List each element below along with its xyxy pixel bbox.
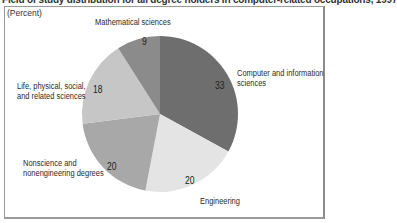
- label-life-sciences-1: Life, physical, social,: [17, 81, 86, 91]
- value-engineering: 20: [185, 175, 194, 186]
- label-mathematical-sciences: Mathematical sciences: [95, 17, 171, 27]
- value-computer-sciences: 33: [215, 80, 224, 91]
- label-computer-sciences-1: Computer and information: [237, 68, 323, 78]
- value-life-sciences: 18: [93, 84, 102, 95]
- value-mathematical-sciences: 9: [142, 36, 147, 47]
- label-computer-sciences-2: sciences: [237, 78, 266, 88]
- label-nonscience-2: nonengineering degrees: [23, 168, 104, 178]
- label-engineering: Engineering: [200, 196, 240, 206]
- label-nonscience-1: Nonscience and: [23, 158, 77, 168]
- value-nonscience: 20: [107, 161, 116, 172]
- label-life-sciences-2: and related sciences: [17, 91, 86, 101]
